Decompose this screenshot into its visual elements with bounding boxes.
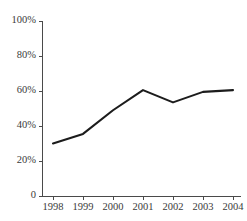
- x-tick-label-1998: 1998: [43, 201, 64, 212]
- x-tick-label-1999: 1999: [73, 201, 94, 212]
- y-tick-label-20: 20%: [17, 154, 37, 165]
- line-chart: 100% 80% 60% 40% 20% 0 1998 1999 2000 20…: [0, 0, 247, 221]
- x-tick-label-2004: 2004: [223, 201, 245, 212]
- y-axis-tick-labels: 100% 80% 60% 40% 20% 0: [12, 14, 37, 200]
- y-tick-label-60: 60%: [17, 84, 37, 95]
- x-axis-tick-labels: 1998 1999 2000 2001 2002 2003 2004: [43, 201, 245, 212]
- x-tick-label-2002: 2002: [163, 201, 184, 212]
- y-tick-label-40: 40%: [17, 119, 37, 130]
- y-axis-ticks: [39, 21, 43, 196]
- y-tick-label-80: 80%: [17, 49, 37, 60]
- x-tick-label-2000: 2000: [103, 201, 124, 212]
- y-tick-label-0: 0: [31, 189, 36, 200]
- chart-plot-area: 100% 80% 60% 40% 20% 0 1998 1999 2000 20…: [0, 0, 247, 221]
- data-series-line: [53, 90, 233, 143]
- x-axis-ticks: [53, 197, 233, 201]
- x-tick-label-2001: 2001: [133, 201, 154, 212]
- x-tick-label-2003: 2003: [193, 201, 214, 212]
- y-tick-label-100: 100%: [12, 14, 37, 25]
